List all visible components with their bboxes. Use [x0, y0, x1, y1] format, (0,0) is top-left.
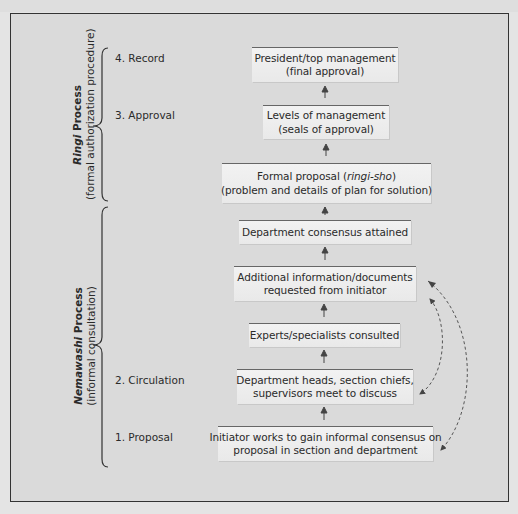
ringi-brace [93, 48, 108, 201]
nemawashi-brace [93, 207, 108, 467]
feedback-arrow-outer [428, 281, 467, 450]
diagram-connectors [0, 0, 518, 514]
feedback-arrow-inner [420, 299, 442, 394]
